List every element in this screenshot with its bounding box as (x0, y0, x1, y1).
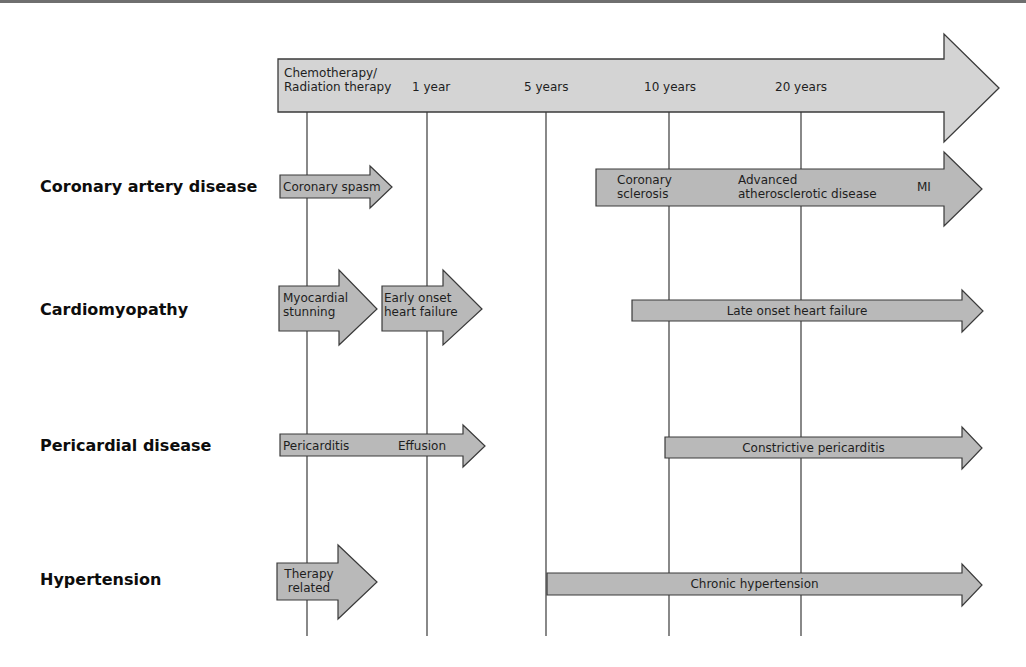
label-coronary-sclerosis-line1: Coronary (617, 173, 672, 187)
tick-1-year: 1 year (412, 80, 450, 94)
label-advanced-line1: Advanced (738, 173, 877, 187)
label-early-onset-line1: Early onset (384, 291, 458, 305)
label-late-onset-heart-failure: Late onset heart failure (632, 304, 962, 318)
label-therapy-line1: Therapy (277, 567, 341, 581)
label-coronary-spasm: Coronary spasm (283, 180, 381, 194)
label-therapy-line2: related (277, 581, 341, 595)
timeline-diagram (0, 0, 1026, 667)
label-myocardial-line2: stunning (283, 305, 348, 319)
label-constrictive-pericarditis: Constrictive pericarditis (665, 441, 962, 455)
label-therapy-related: Therapy related (277, 567, 341, 595)
row-label-pericardial-disease: Pericardial disease (40, 436, 211, 455)
label-early-onset-line2: heart failure (384, 305, 458, 319)
label-mi: MI (917, 180, 931, 194)
tick-5-years: 5 years (524, 80, 568, 94)
row-label-cardiomyopathy: Cardiomyopathy (40, 300, 188, 319)
timeline-start-line1: Chemotherapy/ (284, 66, 391, 80)
label-myocardial-line1: Myocardial (283, 291, 348, 305)
label-myocardial-stunning: Myocardial stunning (283, 291, 348, 319)
label-coronary-sclerosis: Coronary sclerosis (617, 173, 672, 201)
label-advanced-atherosclerotic-disease: Advanced atherosclerotic disease (738, 173, 877, 201)
timeline-start-line2: Radiation therapy (284, 80, 391, 94)
timeline-start-label: Chemotherapy/ Radiation therapy (284, 66, 391, 94)
label-advanced-line2: atherosclerotic disease (738, 187, 877, 201)
row-label-coronary-artery-disease: Coronary artery disease (40, 177, 257, 196)
label-pericarditis: Pericarditis (283, 439, 349, 453)
tick-20-years: 20 years (775, 80, 827, 94)
row-label-hypertension: Hypertension (40, 570, 161, 589)
label-chronic-hypertension: Chronic hypertension (547, 577, 962, 591)
label-early-onset-heart-failure: Early onset heart failure (384, 291, 458, 319)
label-effusion: Effusion (398, 439, 446, 453)
label-coronary-sclerosis-line2: sclerosis (617, 187, 672, 201)
tick-10-years: 10 years (644, 80, 696, 94)
